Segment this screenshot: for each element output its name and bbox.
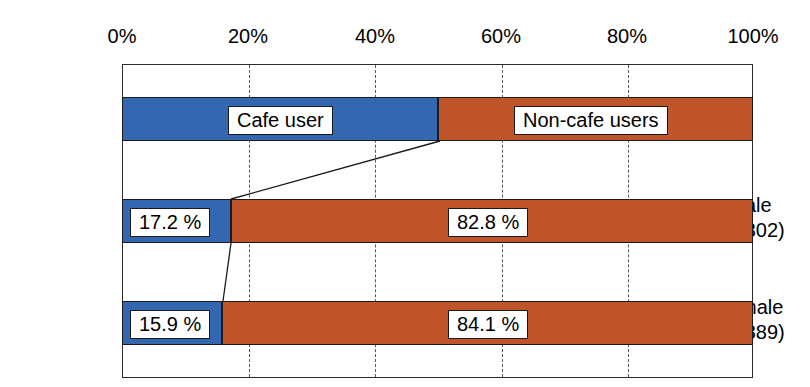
axis-tick-40: 40%: [355, 24, 395, 48]
axis-tick-80: 80%: [607, 24, 647, 48]
axis-tick-20: 20%: [228, 24, 268, 48]
axis-tick-0: 0%: [108, 24, 137, 48]
value-label-female-non-cafe-users: 84.1 %: [448, 310, 528, 339]
value-label-male-cafe-user: 17.2 %: [130, 208, 210, 237]
bar-row-female: [122, 301, 753, 345]
legend-label-cafe-user: Cafe user: [228, 106, 333, 135]
chart-container: 0% 20% 40% 60% 80% 100% male (n=302) Fem…: [0, 0, 810, 387]
legend-label-non-cafe-users: Non-cafe users: [514, 106, 668, 135]
bar-row-male: [122, 199, 753, 243]
axis-tick-100: 100%: [727, 24, 778, 48]
value-label-female-cafe-user: 15.9 %: [130, 310, 210, 339]
value-label-male-non-cafe-users: 82.8 %: [448, 208, 528, 237]
axis-tick-60: 60%: [481, 24, 521, 48]
